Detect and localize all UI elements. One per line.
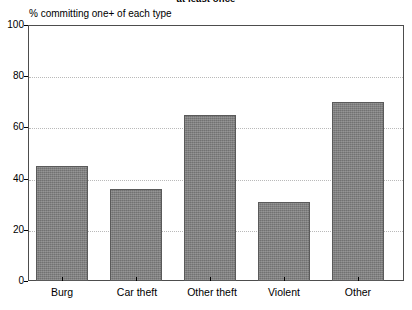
x-label-other: Other [332,286,384,298]
y-tick-label-80: 80 [0,71,24,81]
bar-violent[interactable] [258,202,310,281]
y-tick-label-100: 100 [0,20,24,30]
x-label-burg: Burg [36,286,88,298]
y-tick-label-60: 60 [0,122,24,132]
y-tick-100: 100 [0,20,28,30]
y-axis-label: % committing one+ of each type [29,8,172,20]
y-tick-20: 20 [0,225,28,235]
x-label-car-theft: Car theft [105,286,169,298]
y-tick-0: 0 [0,276,28,286]
bar-car-theft[interactable] [110,189,162,281]
y-tick-40: 40 [0,174,28,184]
x-label-other-theft: Other theft [178,286,246,298]
x-tick-mark-1 [136,277,137,281]
y-tick-label-0: 0 [0,276,24,286]
y-tick-label-40: 40 [0,174,24,184]
y-tick-80: 80 [0,71,28,81]
bar-other-theft[interactable] [184,115,236,281]
y-tick-60: 60 [0,122,28,132]
bars-group [28,25,404,281]
chart-title: at least once [0,0,412,4]
bar-burg[interactable] [36,166,88,281]
y-tick-label-20: 20 [0,225,24,235]
x-tick-mark-2 [210,277,211,281]
x-tick-mark-3 [284,277,285,281]
x-tick-mark-4 [358,277,359,281]
x-label-violent: Violent [256,286,312,298]
x-tick-mark-0 [62,277,63,281]
y-tick-mark-0 [24,281,28,282]
chart-title-clipped: at least once [0,0,412,7]
bar-other[interactable] [332,102,384,281]
bar-chart: at least once % committing one+ of each … [0,0,412,310]
